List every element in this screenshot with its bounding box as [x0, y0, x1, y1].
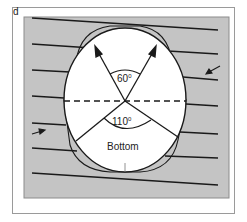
diagram-figure: d 600 1100 Bottom: [0, 0, 247, 222]
diagram-svg: d 600 1100 Bottom: [0, 0, 247, 222]
bottom-label: Bottom: [107, 141, 139, 152]
panel-label: d: [13, 6, 19, 17]
